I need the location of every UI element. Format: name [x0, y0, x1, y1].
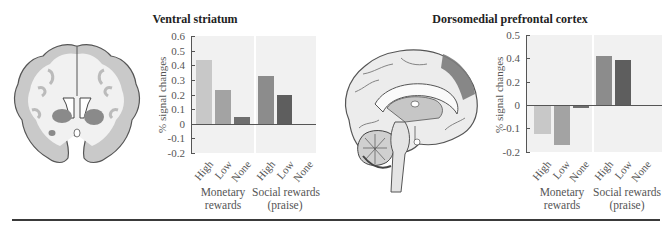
group-divider: [592, 35, 594, 152]
y-tick: 0.1: [155, 103, 185, 115]
y-tick: 0: [155, 118, 185, 130]
y-tick-mark: [191, 36, 195, 37]
zero-line: [526, 105, 662, 106]
y-tick: 0: [490, 99, 520, 111]
group-label-monetary: Monetary rewards: [532, 186, 592, 212]
y-axis: [526, 35, 527, 153]
group-label-line: Monetary: [532, 186, 592, 199]
group-label-social: Social rewards (praise): [592, 186, 662, 212]
bar-monetary-low: [215, 90, 231, 124]
group-label-line: Social rewards: [252, 186, 318, 199]
group-label-line: (praise): [252, 199, 318, 212]
bar-social-high: [258, 76, 274, 124]
chart-panel: [527, 35, 662, 152]
y-tick-mark: [526, 82, 530, 83]
y-tick-mark: [526, 35, 530, 36]
y-tick-mark: [191, 138, 195, 139]
y-tick: 0.4: [490, 52, 520, 64]
y-tick: 0.2: [155, 89, 185, 101]
y-tick: 0.5: [490, 29, 520, 41]
group-label-line: Social rewards: [592, 186, 662, 199]
y-tick: -0.1: [490, 122, 520, 134]
y-tick: 0.6: [155, 30, 185, 42]
y-tick: -0.1: [155, 132, 185, 144]
bar-social-low: [615, 60, 631, 105]
y-tick-mark: [526, 128, 530, 129]
y-tick: -0.2: [490, 146, 520, 158]
y-tick-mark: [191, 153, 195, 154]
y-tick-mark: [526, 152, 530, 153]
bar-social-high: [596, 56, 612, 105]
y-tick: 0.4: [155, 59, 185, 71]
y-tick-mark: [191, 95, 195, 96]
y-tick-mark: [191, 51, 195, 52]
y-tick-mark: [191, 80, 195, 81]
coronal-brain-section-icon: [8, 40, 148, 175]
y-tick: 0.5: [155, 45, 185, 57]
y-tick: 0.3: [155, 74, 185, 86]
bar-monetary-none: [234, 117, 250, 124]
sagittal-brain-section-icon: [335, 42, 485, 197]
zero-line: [191, 124, 316, 125]
group-divider: [254, 36, 256, 153]
bar-social-low: [277, 95, 292, 124]
bottom-rule: [12, 219, 660, 221]
bar-monetary-high: [196, 60, 212, 124]
y-tick-mark: [191, 109, 195, 110]
group-label-monetary: Monetary rewards: [193, 186, 253, 212]
y-tick: 0.2: [490, 76, 520, 88]
y-tick-mark: [526, 58, 530, 59]
group-label-line: rewards: [532, 199, 592, 212]
group-label-line: Monetary: [193, 186, 253, 199]
group-label-social: Social rewards (praise): [252, 186, 318, 212]
group-label-line: (praise): [592, 199, 662, 212]
left-figure-title: Ventral striatum: [120, 12, 270, 27]
y-tick: -0.2: [155, 147, 185, 159]
group-label-line: rewards: [193, 199, 253, 212]
y-tick-mark: [191, 65, 195, 66]
bar-monetary-low: [554, 105, 570, 145]
right-figure-title: Dorsomedial prefrontal cortex: [420, 12, 600, 27]
bar-monetary-high: [534, 105, 551, 134]
